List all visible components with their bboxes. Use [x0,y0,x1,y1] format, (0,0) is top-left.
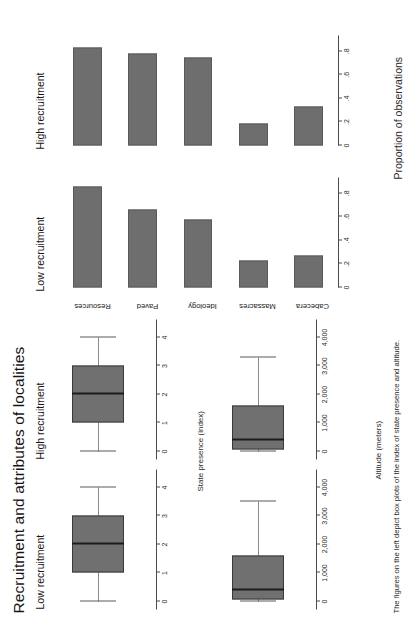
axis-tick [338,144,342,145]
panel-bars-high: High recruitment 0.2.4.6.8 [34,19,368,149]
axis-tick-label: 2,000 [321,378,328,410]
bar-paved [128,53,157,145]
axis-tick [338,239,342,240]
plot-area-state-low: 01234 [56,469,174,609]
axis-tick [156,336,160,337]
boxplot-frame-line [316,469,317,609]
axis-tick-label: 1,000 [321,557,328,589]
bar-category-label-ideology: Ideology [188,302,217,311]
bar-paved [128,209,157,287]
panel-boxplot-state-low: Low recruitment 01234 [34,469,184,609]
plot-area-state-high: 01234 [56,319,174,459]
bar-cabecera [294,106,323,145]
whisker-cap [80,336,116,337]
boxplot-box [232,555,284,599]
whisker-cap [240,500,276,501]
axis-tick [338,262,342,263]
axis-tick [156,515,160,516]
axis-title-proportion: Proportion of observations [392,56,404,179]
whisker-cap [240,450,276,451]
axis-tick [338,286,342,287]
page-title: Recruitment and attributes of localities [10,346,28,613]
axis-tick-label: 4 [161,471,168,503]
axis-tick-label: 4,000 [321,321,328,353]
plot-area-bars-high: 0.2.4.6.8 [56,19,356,149]
axis-tick [156,600,160,601]
bar-category-label-cabecera: Cabecera [296,302,329,311]
axis-tick-label: 4,000 [321,471,328,503]
axis-tick [338,50,342,51]
panel-title-bars-low: Low recruitment [34,216,46,291]
axis-tick [156,543,160,544]
bar-cabecera [294,255,323,287]
axis-tick-label: .8 [343,179,350,207]
axis-tick [316,543,320,544]
bar-massacres [239,260,268,287]
plot-area-bars-low: 0.2.4.6.8ResourcesPavedIdeologyMassacres… [56,161,356,291]
axis-tick-label: 2 [161,528,168,560]
boxplot-frame-line [156,469,157,609]
bar-resources [73,186,102,287]
panel-bars-low: Low recruitment 0.2.4.6.8ResourcesPavedI… [34,161,368,291]
bar-ideology [184,219,213,287]
bar-category-label-paved: Paved [137,302,159,311]
boxplot-median-line [232,438,284,440]
bar-axis-line [338,177,339,287]
boxplot-frame-line [156,319,157,459]
axis-tick-label: 1 [161,407,168,439]
axis-tick-label: 1 [161,557,168,589]
whisker-cap [240,356,276,357]
axis-tick-label: 3 [161,350,168,382]
axis-tick-label: .8 [343,37,350,65]
axis-tick [338,120,342,121]
boxplot-median-line [72,542,124,544]
figure-caption: The figures on the left depict box plots… [392,339,401,613]
bar-axis-line [338,35,339,145]
panel-boxplot-state-high: High recruitment 01234 [34,319,184,459]
panel-boxplot-alt-low: 01,0002,0003,0004,000 [216,469,366,609]
axis-tick [316,600,320,601]
axis-tick-label: 0 [161,435,168,467]
bar-category-label-massacres: Massacres [239,302,276,311]
bar-massacres [239,123,268,145]
axis-title-state-presence: State presence (index) [196,411,205,492]
axis-tick [156,393,160,394]
whisker-cap [80,486,116,487]
axis-tick-label: 2,000 [321,528,328,560]
axis-tick [156,422,160,423]
boxplot-box [232,405,284,449]
boxplot-median-line [232,588,284,590]
figure-rotation-wrapper: Recruitment and attributes of localities… [0,0,418,631]
plot-area-alt-high: 01,0002,0003,0004,000 [216,319,334,459]
axis-tick-label: 2 [161,378,168,410]
whisker-cap [80,600,116,601]
panel-title-bars-high: High recruitment [34,72,46,149]
panel-title-boxplot-state-high: High recruitment [34,382,46,459]
axis-tick [156,365,160,366]
axis-tick [316,365,320,366]
axis-tick [338,192,342,193]
axis-tick-label: 3,000 [321,350,328,382]
whisker-cap [80,450,116,451]
axis-tick [316,515,320,516]
bar-category-label-resources: Resources [74,302,110,311]
axis-tick [316,422,320,423]
panel-title-boxplot-state-low: Low recruitment [34,534,46,609]
axis-tick [316,572,320,573]
axis-tick-label: 1,000 [321,407,328,439]
bar-resources [73,47,102,145]
panel-boxplot-alt-high: 01,0002,0003,0004,000 [216,319,366,459]
axis-tick [316,486,320,487]
axis-tick [316,450,320,451]
axis-tick [338,97,342,98]
boxplot-frame-line [316,319,317,459]
axis-tick-label: 4 [161,321,168,353]
axis-tick [156,486,160,487]
bar-ideology [184,57,213,145]
axis-tick [338,73,342,74]
axis-tick-label: 0 [161,585,168,617]
figure-canvas: Recruitment and attributes of localities… [0,0,418,631]
axis-tick [156,572,160,573]
axis-tick-label: 0 [321,435,328,467]
axis-tick-label: 3,000 [321,500,328,532]
